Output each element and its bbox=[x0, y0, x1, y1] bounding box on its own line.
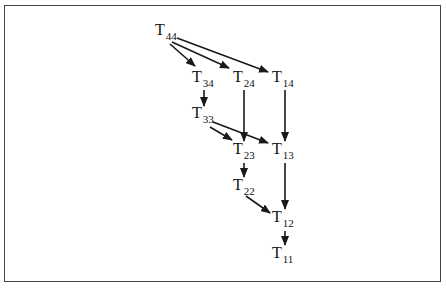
node-letter: T bbox=[233, 68, 243, 85]
node-T23: T23 bbox=[233, 141, 255, 157]
node-subscript: 23 bbox=[244, 149, 255, 161]
node-letter: T bbox=[233, 140, 243, 157]
edge-T33-T23 bbox=[210, 127, 232, 140]
edge-T44-T14 bbox=[177, 38, 268, 72]
node-subscript: 24 bbox=[244, 77, 255, 89]
edges-layer bbox=[0, 0, 446, 291]
node-letter: T bbox=[272, 68, 282, 85]
node-T33: T33 bbox=[192, 105, 214, 121]
edge-T22-T12 bbox=[246, 196, 270, 213]
node-T24: T24 bbox=[233, 69, 255, 85]
node-letter: T bbox=[155, 21, 165, 38]
node-T14: T14 bbox=[272, 69, 294, 85]
node-subscript: 13 bbox=[283, 149, 294, 161]
node-subscript: 14 bbox=[283, 77, 294, 89]
node-letter: T bbox=[192, 104, 202, 121]
node-letter: T bbox=[272, 140, 282, 157]
node-subscript: 44 bbox=[166, 30, 177, 42]
node-subscript: 22 bbox=[244, 185, 255, 197]
node-letter: T bbox=[272, 244, 282, 261]
node-subscript: 11 bbox=[283, 253, 294, 265]
node-subscript: 12 bbox=[283, 217, 294, 229]
node-T44: T44 bbox=[155, 22, 177, 38]
node-letter: T bbox=[272, 208, 282, 225]
node-T22: T22 bbox=[233, 177, 255, 193]
node-T34: T34 bbox=[192, 69, 214, 85]
node-subscript: 33 bbox=[203, 113, 214, 125]
node-T11: T11 bbox=[272, 245, 293, 261]
node-subscript: 34 bbox=[203, 77, 214, 89]
node-T13: T13 bbox=[272, 141, 294, 157]
node-T12: T12 bbox=[272, 209, 294, 225]
node-letter: T bbox=[192, 68, 202, 85]
node-letter: T bbox=[233, 176, 243, 193]
